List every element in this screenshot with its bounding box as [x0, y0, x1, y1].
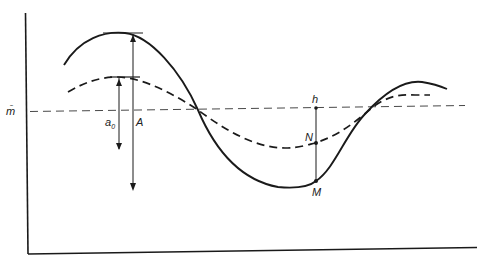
label-mean: m̄	[6, 105, 15, 117]
x-axis	[28, 248, 477, 255]
mean-level-line	[30, 106, 465, 112]
label-M: M	[312, 186, 322, 198]
small-amplitude-wave	[68, 77, 430, 148]
label-a0: a0	[105, 116, 115, 130]
amplitude-arrow-a0	[116, 78, 122, 150]
wave-amplitude-diagram: m̄ a0 A h N M	[0, 0, 477, 264]
point-h	[314, 106, 318, 110]
axes	[26, 13, 477, 254]
point-N	[314, 141, 318, 145]
label-h: h	[312, 93, 318, 105]
y-axis	[26, 13, 29, 254]
measure-line-hNM	[314, 106, 318, 183]
amplitude-arrow-A	[130, 34, 136, 191]
label-N: N	[305, 131, 313, 143]
point-M	[314, 179, 318, 183]
label-A: A	[135, 116, 143, 128]
